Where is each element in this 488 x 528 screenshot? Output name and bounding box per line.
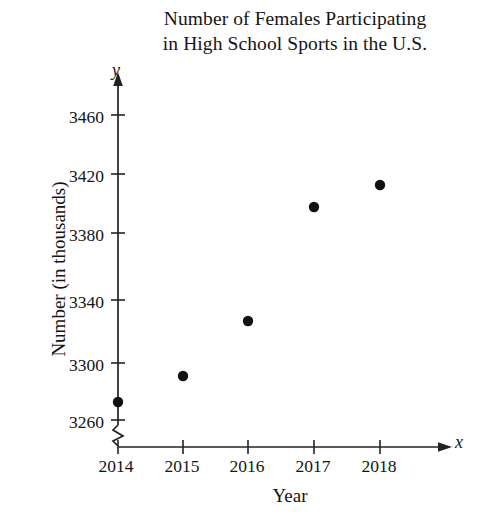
data-point-2017 (309, 202, 319, 212)
data-point-2015 (178, 371, 188, 381)
x-axis-arrowhead (438, 442, 452, 452)
data-point-2014 (113, 397, 123, 407)
scatter-chart: Number of Females Participating in High … (0, 0, 488, 528)
data-point-2018 (375, 180, 385, 190)
y-axis-arrowhead (113, 72, 123, 86)
plot-area (0, 0, 488, 528)
data-point-2016 (243, 316, 253, 326)
